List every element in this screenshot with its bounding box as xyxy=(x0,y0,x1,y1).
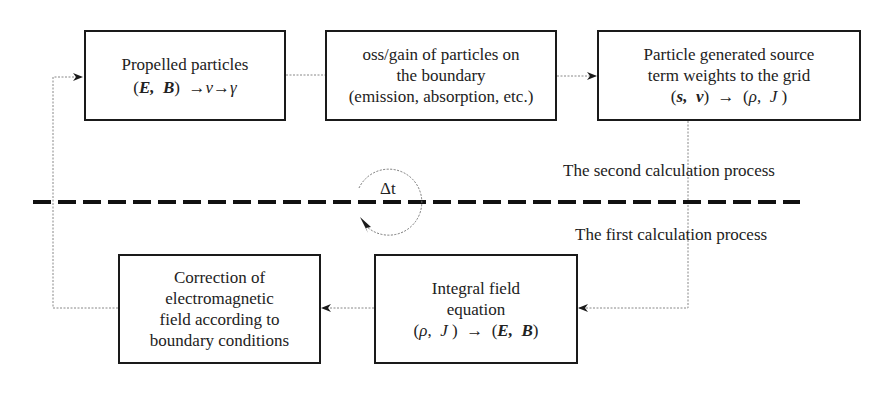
box-integral-field-equation: Integral field equation (ρ, J ) → (E, B) xyxy=(374,254,578,364)
integral-line1: Integral field xyxy=(432,278,520,299)
boundary-line3: (emission, absorption, etc.) xyxy=(349,86,534,107)
propelled-title: Propelled particles xyxy=(122,54,249,75)
source-math: (s, v) → (ρ, J ) xyxy=(671,86,787,107)
boundary-line2: the boundary xyxy=(396,65,485,86)
box-boundary-loss-gain: oss/gain of particles on the boundary (e… xyxy=(325,30,557,121)
label-timestep: Δt xyxy=(380,179,396,199)
boundary-line1: oss/gain of particles on xyxy=(362,44,519,65)
integral-math: (ρ, J ) → (E, B) xyxy=(414,320,539,341)
integral-line2: equation xyxy=(447,299,506,320)
propelled-math: (E, B) →v→γ xyxy=(133,77,237,98)
connector-source-to-integral xyxy=(579,121,688,308)
source-line1: Particle generated source xyxy=(644,44,815,65)
correction-line1: Correction of xyxy=(174,267,265,288)
correction-line2: electromagnetic xyxy=(165,288,274,309)
timestep-loop-arrowhead-icon xyxy=(360,217,371,233)
label-second-calculation-process: The second calculation process xyxy=(563,161,775,181)
box-correction-em-field: Correction of electromagnetic field acco… xyxy=(118,254,321,364)
box-source-weights: Particle generated source term weights t… xyxy=(597,30,861,121)
correction-line4: boundary conditions xyxy=(150,330,289,351)
correction-line3: field according to xyxy=(160,309,280,330)
box-propelled-particles: Propelled particles (E, B) →v→γ xyxy=(84,30,286,121)
label-first-calculation-process: The first calculation process xyxy=(575,225,767,245)
source-line2: term weights to the grid xyxy=(648,65,810,86)
